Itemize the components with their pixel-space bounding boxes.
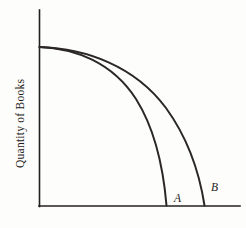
ppf-curve-b — [40, 47, 205, 206]
ppf-figure: Quantity of Books A B — [0, 0, 246, 228]
curve-label-b: B — [211, 181, 218, 193]
y-axis-title: Quantity of Books — [14, 79, 27, 168]
ppf-curve-a — [40, 47, 167, 206]
ppf-chart-canvas: Quantity of Books A B — [0, 0, 246, 228]
curve-label-a: A — [173, 192, 182, 204]
